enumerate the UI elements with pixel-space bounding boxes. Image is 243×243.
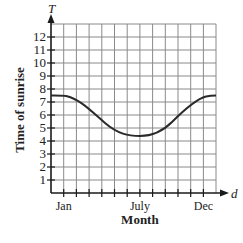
- x-tick-label-dec: Dec: [194, 199, 213, 213]
- x-tick-label-jan: Jan: [56, 199, 72, 213]
- y-tick-labels: 1 2 3 4 5 6 7 8 9 10 11 12: [33, 29, 47, 187]
- x-tick-label-july: July: [130, 199, 150, 213]
- y-tick-label: 3: [40, 146, 47, 161]
- y-variable-label: T: [48, 1, 56, 16]
- y-tick-label: 5: [40, 120, 47, 135]
- x-variable-label: d: [231, 186, 238, 201]
- y-axis-title: Time of sunrise: [12, 67, 27, 153]
- chart-figure: 1 2 3 4 5 6 7 8 9 10 11 12 T d Jan July …: [0, 0, 243, 243]
- y-tick-label: 1: [40, 172, 47, 187]
- y-tick-label: 7: [40, 94, 47, 109]
- y-tick-label: 10: [33, 55, 46, 70]
- x-axis-title: Month: [121, 212, 159, 227]
- y-tick-label: 2: [40, 159, 47, 174]
- y-tick-label: 11: [33, 42, 46, 57]
- y-tick-label: 6: [40, 107, 47, 122]
- grid: [51, 24, 216, 193]
- y-tick-label: 12: [33, 29, 46, 44]
- y-tick-label: 9: [40, 68, 47, 83]
- sunrise-chart: 1 2 3 4 5 6 7 8 9 10 11 12 T d Jan July …: [0, 0, 243, 243]
- x-axis-arrow-icon: [220, 190, 229, 197]
- y-tick-label: 4: [40, 133, 47, 148]
- y-tick-label: 8: [40, 81, 47, 96]
